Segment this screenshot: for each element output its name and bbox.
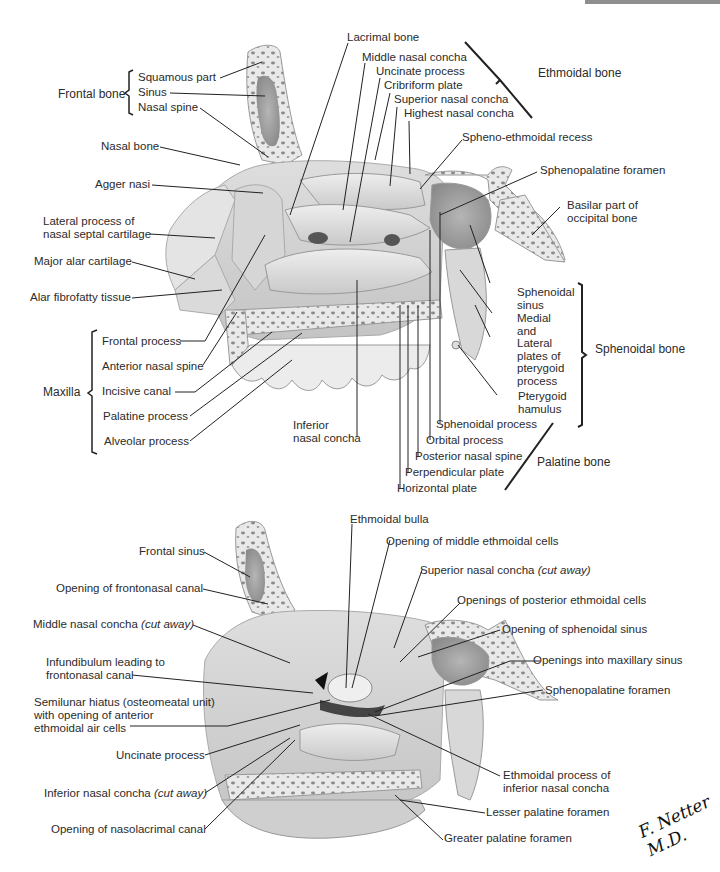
label-basilar-part-line1: Basilar part of <box>567 199 638 212</box>
label-lateral-process-line1: Lateral process of <box>43 215 134 228</box>
label-superior-nasal-concha: Superior nasal concha <box>394 93 508 106</box>
label-spheno-ethmoidal-recess: Spheno-ethmoidal recess <box>462 131 592 144</box>
label-agger-nasi: Agger nasi <box>95 178 150 191</box>
label-openings-maxillary-sinus: Openings into maxillary sinus <box>533 654 683 667</box>
label-nasal-bone: Nasal bone <box>101 140 159 153</box>
label-alveolar-process: Alveolar process <box>104 435 189 448</box>
label-cribriform-plate: Cribriform plate <box>384 79 463 92</box>
label-infundibulum-line2: frontonasal canal <box>46 669 134 682</box>
label-pterygoid-plates-line5: pterygoid <box>517 362 564 375</box>
label-nasal-spine: Nasal spine <box>138 101 198 114</box>
label-perpendicular-plate: Perpendicular plate <box>405 466 504 479</box>
label-inferior-nasal-concha-line2: nasal concha <box>293 432 361 445</box>
label-opening-middle-ethmoidal-cells: Opening of middle ethmoidal cells <box>386 535 559 548</box>
label-sphenoidal-sinus-line2: sinus <box>517 299 544 312</box>
label-highest-nasal-concha: Highest nasal concha <box>404 107 514 120</box>
label-pterygoid-hamulus-line2: hamulus <box>518 403 561 416</box>
label-ethmoidal-process-line1: Ethmoidal process of <box>503 769 610 782</box>
label-lesser-palatine-foramen: Lesser palatine foramen <box>486 806 609 819</box>
label-semilunar-hiatus-line3: ethmoidal air cells <box>34 722 126 735</box>
label-opening-frontonasal-canal: Opening of frontonasal canal <box>56 582 203 595</box>
label-inferior-nasal-concha-line1: Inferior <box>293 419 329 432</box>
label-uncinate-process-lower: Uncinate process <box>116 749 205 762</box>
label-opening-nasolacrimal-canal: Opening of nasolacrimal canal <box>51 823 206 836</box>
label-palatine-process: Palatine process <box>103 410 188 423</box>
label-semilunar-hiatus-line1: Semilunar hiatus (osteomeatal unit) <box>34 696 215 709</box>
label-superior-concha-cut-away: Superior nasal concha (cut away) <box>420 564 591 577</box>
label-semilunar-hiatus-line2: with opening of anterior <box>34 709 154 722</box>
label-openings-posterior-ethmoidal-cells: Openings of posterior ethmoidal cells <box>457 594 646 607</box>
label-sinus: Sinus <box>138 86 167 99</box>
label-pterygoid-plates-line6: process <box>517 375 557 388</box>
group-maxilla: Maxilla <box>43 385 80 399</box>
label-greater-palatine-foramen: Greater palatine foramen <box>444 832 572 845</box>
label-inferior-concha-cut-away: Inferior nasal concha (cut away) <box>44 787 207 800</box>
label-sphenopalatine-foramen: Sphenopalatine foramen <box>540 164 665 177</box>
label-lateral-process-line2: nasal septal cartilage <box>43 228 151 241</box>
label-middle-concha-cut-away: Middle nasal concha (cut away) <box>33 618 194 631</box>
label-major-alar-cartilage: Major alar cartilage <box>34 255 132 268</box>
label-pterygoid-plates-line3: Lateral <box>517 337 552 350</box>
label-sphenoidal-process: Sphenoidal process <box>436 418 537 431</box>
label-ethmoidal-bulla: Ethmoidal bulla <box>350 513 429 526</box>
label-anterior-nasal-spine: Anterior nasal spine <box>102 360 204 373</box>
group-ethmoidal-bone: Ethmoidal bone <box>538 66 621 80</box>
label-pterygoid-hamulus-line1: Pterygoid <box>518 390 567 403</box>
label-frontal-sinus: Frontal sinus <box>139 545 205 558</box>
label-squamous-part: Squamous part <box>138 71 216 84</box>
label-pterygoid-plates-line1: Medial <box>517 312 551 325</box>
label-frontal-process: Frontal process <box>102 335 181 348</box>
group-palatine-bone: Palatine bone <box>537 455 610 469</box>
label-basilar-part-line2: occipital bone <box>567 212 637 225</box>
label-incisive-canal: Incisive canal <box>102 385 171 398</box>
label-lacrimal-bone: Lacrimal bone <box>347 31 419 44</box>
label-horizontal-plate: Horizontal plate <box>397 482 477 495</box>
label-posterior-nasal-spine: Posterior nasal spine <box>415 450 522 463</box>
label-opening-sphenoidal-sinus: Opening of sphenoidal sinus <box>502 623 647 636</box>
label-middle-nasal-concha: Middle nasal concha <box>362 51 467 64</box>
group-sphenoidal-bone: Sphenoidal bone <box>595 342 685 356</box>
label-alar-fibrofatty-tissue: Alar fibrofatty tissue <box>30 291 131 304</box>
label-ethmoidal-process-line2: inferior nasal concha <box>503 782 609 795</box>
label-infundibulum-line1: Infundibulum leading to <box>46 656 165 669</box>
label-orbital-process: Orbital process <box>426 434 503 447</box>
label-uncinate-process: Uncinate process <box>376 65 465 78</box>
label-sphenoidal-sinus-line1: Sphenoidal <box>517 286 575 299</box>
label-sphenopalatine-foramen-lower: Sphenopalatine foramen <box>545 684 670 697</box>
group-frontal-bone: Frontal bone <box>58 87 125 101</box>
